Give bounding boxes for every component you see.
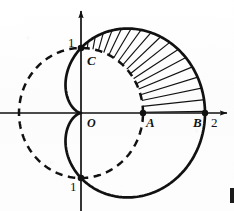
page-edge-mark (230, 188, 234, 203)
label-point-a: A (146, 116, 155, 129)
label-point-c: C (87, 54, 96, 67)
hatch-line (140, 99, 210, 107)
label-y-bottom-one: 1 (70, 180, 77, 193)
point-b-dot (202, 110, 208, 116)
polar-curve-figure: 1 C O A B 2 1 (0, 0, 234, 211)
figure-canvas (0, 0, 234, 211)
label-y-top-one: 1 (68, 36, 75, 49)
label-point-b: B (193, 116, 202, 129)
hatch-line (141, 111, 212, 112)
point-c-dot (78, 45, 85, 52)
point-bottom-one-dot (78, 175, 85, 182)
label-x-two: 2 (211, 116, 218, 129)
axes-group (0, 11, 227, 211)
label-origin: O (87, 117, 96, 129)
hatch-line (139, 87, 207, 101)
